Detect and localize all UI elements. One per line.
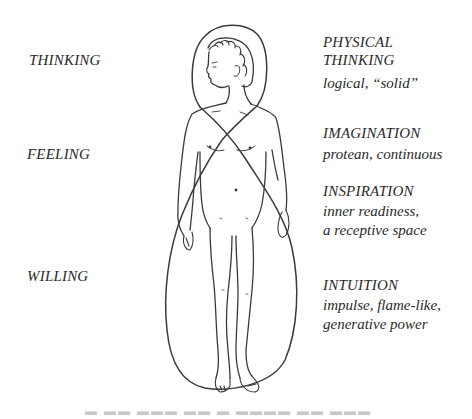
cut-off-caption: ▬ ▬▬ ▬▬▬ ▬▬ ▬ ▬▬▬▬ ▬▬ ▬▬▬ — [85, 404, 372, 419]
figure-body — [178, 103, 289, 250]
figure-head — [207, 38, 254, 104]
figure-legs — [210, 228, 259, 392]
lemniscate-loop — [166, 25, 297, 389]
